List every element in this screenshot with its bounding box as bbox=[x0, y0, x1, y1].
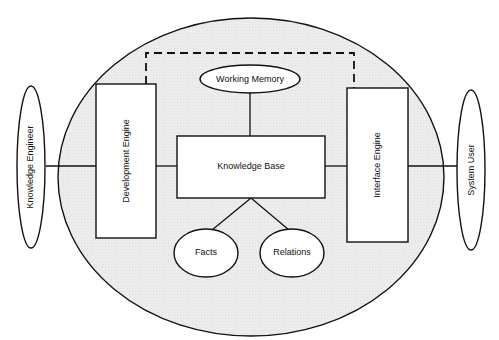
knowledge-engineer-label: Knowledge Engineer bbox=[25, 125, 35, 208]
relations-label: Relations bbox=[273, 247, 311, 257]
facts-node: Facts bbox=[174, 229, 238, 277]
expert-system-diagram: Knowledge Engineer System User Developme… bbox=[0, 0, 499, 340]
working-memory-node: Working Memory bbox=[200, 65, 300, 93]
relations-node: Relations bbox=[260, 229, 324, 277]
interface-engine-node: Interface Engine bbox=[347, 88, 408, 242]
facts-label: Facts bbox=[195, 247, 218, 257]
working-memory-label: Working Memory bbox=[216, 74, 284, 84]
interface-engine-label: Interface Engine bbox=[372, 132, 382, 198]
development-engine-label: Development Engine bbox=[121, 119, 131, 203]
development-engine-node: Development Engine bbox=[96, 84, 156, 238]
knowledge-engineer-node: Knowledge Engineer bbox=[17, 86, 45, 248]
knowledge-base-label: Knowledge Base bbox=[217, 161, 285, 171]
system-user-node: System User bbox=[457, 90, 485, 250]
knowledge-base-node: Knowledge Base bbox=[177, 136, 325, 198]
system-user-label: System User bbox=[466, 144, 476, 196]
